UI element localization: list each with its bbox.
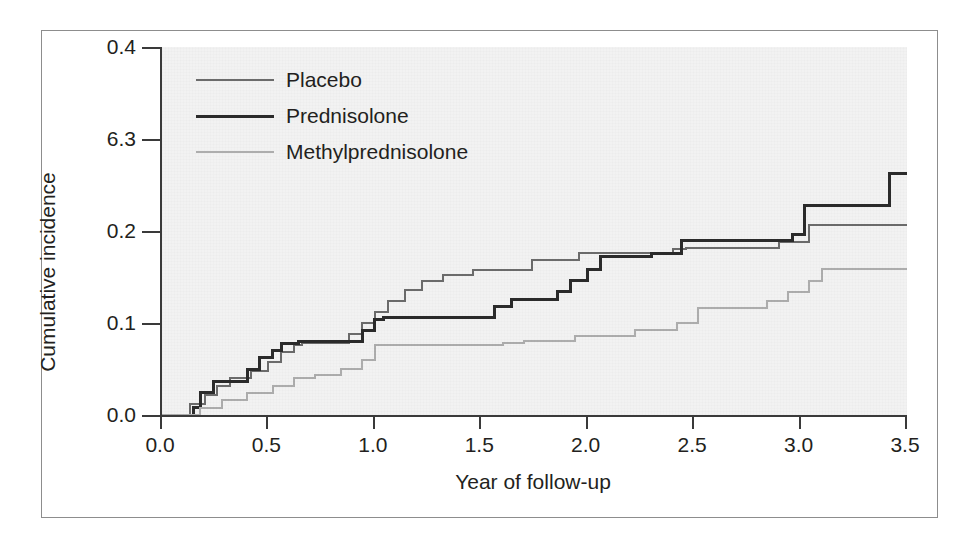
y-tick-label: 0.2: [107, 219, 136, 243]
y-tick-label: 6.3: [107, 127, 136, 151]
legend-swatch-icon: [196, 151, 274, 153]
x-tick-mark: [799, 415, 801, 429]
series-line-methylprednisolone: [162, 269, 907, 415]
x-tick-mark: [160, 415, 162, 429]
legend-item-prednisolone: Prednisolone: [196, 98, 468, 134]
x-tick-mark: [905, 415, 907, 429]
y-tick-label: 0.4: [107, 35, 136, 59]
x-tick-mark: [692, 415, 694, 429]
legend-item-placebo: Placebo: [196, 62, 468, 98]
x-tick-label: 0.0: [145, 433, 174, 457]
legend-swatch-icon: [196, 79, 274, 81]
x-tick-label: 2.5: [678, 433, 707, 457]
y-tick-mark: [142, 231, 160, 233]
x-tick-label: 0.5: [252, 433, 281, 457]
legend-label: Methylprednisolone: [286, 140, 468, 164]
x-tick-mark: [479, 415, 481, 429]
x-tick-mark: [373, 415, 375, 429]
series-line-placebo: [162, 225, 907, 415]
y-tick-mark: [142, 139, 160, 141]
legend-label: Placebo: [286, 68, 362, 92]
series-line-prednisolone: [162, 173, 907, 415]
x-tick-label: 1.5: [465, 433, 494, 457]
legend-item-methylprednisolone: Methylprednisolone: [196, 134, 468, 170]
x-axis-title: Year of follow-up: [455, 470, 611, 494]
x-tick-label: 2.0: [571, 433, 600, 457]
y-tick-mark: [142, 323, 160, 325]
y-tick-mark: [142, 47, 160, 49]
legend-label: Prednisolone: [286, 104, 409, 128]
x-tick-mark: [266, 415, 268, 429]
x-tick-label: 3.0: [784, 433, 813, 457]
x-tick-label: 3.5: [890, 433, 919, 457]
x-tick-mark: [586, 415, 588, 429]
legend: PlaceboPrednisoloneMethylprednisolone: [196, 62, 468, 170]
x-tick-label: 1.0: [358, 433, 387, 457]
legend-swatch-icon: [196, 115, 274, 118]
y-tick-label: 0.1: [107, 311, 136, 335]
